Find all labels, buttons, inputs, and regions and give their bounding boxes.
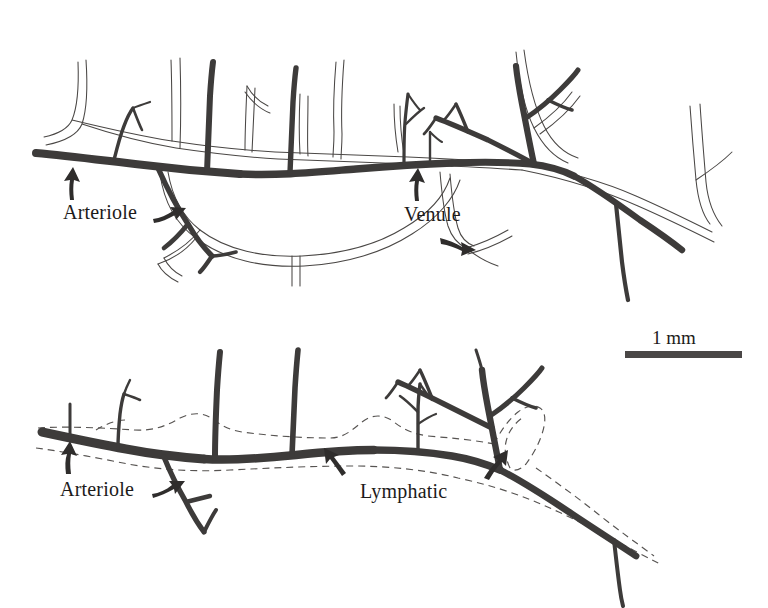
arteriole-branch xyxy=(616,204,628,300)
venule-branch xyxy=(690,106,710,224)
scale-bar-label: 1 mm xyxy=(652,328,696,347)
arteriole-branch xyxy=(290,68,296,173)
arteriole-twig xyxy=(186,496,210,502)
arteriole-twig xyxy=(212,252,236,256)
arteriole-branch xyxy=(436,118,534,164)
arteriole-branch xyxy=(114,108,133,160)
arteriole-twig xyxy=(124,394,140,400)
arteriole-top-up-arrow xyxy=(64,167,80,200)
venule-branch xyxy=(252,88,255,152)
lymphatic-lower xyxy=(36,448,660,564)
venule-branch xyxy=(171,60,172,141)
venule-twig xyxy=(247,86,268,106)
arteriole-twig xyxy=(133,108,142,130)
arteriole-bottom-up-arrow xyxy=(61,441,77,474)
arteriole-branch xyxy=(404,94,408,164)
venule-branch xyxy=(245,86,247,150)
arteriole-twig xyxy=(548,100,572,110)
arteriole-twig xyxy=(124,380,130,394)
venule-twig xyxy=(158,264,178,282)
label-arteriole-bottom: Arteriole xyxy=(60,479,134,499)
arteriole-twig xyxy=(476,350,482,370)
arteriole-twig xyxy=(400,396,418,412)
label-venule-top: Venule xyxy=(404,204,461,224)
venule-top-up-arrow xyxy=(409,168,425,201)
venule-branch xyxy=(341,60,344,159)
scale-bar xyxy=(625,351,742,358)
venule-branch xyxy=(700,104,722,226)
arteriole-trunk xyxy=(42,432,204,459)
arteriole-branch xyxy=(164,457,204,532)
label-arteriole-top: Arteriole xyxy=(63,202,137,222)
arteriole-branch xyxy=(207,62,213,172)
lymphatic-right xyxy=(536,468,654,556)
label-lymphatic-bottom: Lymphatic xyxy=(360,481,447,501)
venule-branch xyxy=(299,94,300,154)
arteriole-twig xyxy=(133,102,150,108)
arteriole-trunk xyxy=(374,450,500,470)
venule-branch xyxy=(180,58,181,148)
venule-twig xyxy=(245,92,270,113)
lymphatic-loop xyxy=(505,418,522,468)
arteriole-branch xyxy=(292,350,298,455)
arteriole-branch xyxy=(118,394,124,448)
arteriole-twig xyxy=(386,382,398,398)
arteriole-branch xyxy=(158,168,212,256)
arteriole-trunk xyxy=(574,176,682,250)
scale-bar-group xyxy=(625,351,742,358)
venule-twig xyxy=(394,104,398,152)
figure-root: Arteriole Venule Arteriole Lymphatic 1 m… xyxy=(0,0,768,608)
arteriole-twig xyxy=(408,94,420,110)
venule-branch xyxy=(333,62,336,157)
venule-twig xyxy=(696,152,732,180)
arteriole-twig xyxy=(406,108,424,124)
arteriole-twig xyxy=(444,104,456,120)
arteriole-twig xyxy=(164,224,188,248)
arteriole-twig xyxy=(200,256,212,272)
vessel-drawing-svg xyxy=(0,0,768,608)
arteriole-twig xyxy=(408,370,420,386)
arteriole-branch xyxy=(215,352,220,458)
arteriole-twig xyxy=(512,398,536,408)
venule-branch xyxy=(46,60,87,145)
arteriole-twig xyxy=(418,414,436,424)
arteriole-network-top xyxy=(36,62,682,300)
venule-branch xyxy=(44,62,78,137)
arteriole-trunk xyxy=(204,450,374,460)
arteriole-twig xyxy=(430,132,442,142)
arteriole-twig xyxy=(204,510,216,532)
